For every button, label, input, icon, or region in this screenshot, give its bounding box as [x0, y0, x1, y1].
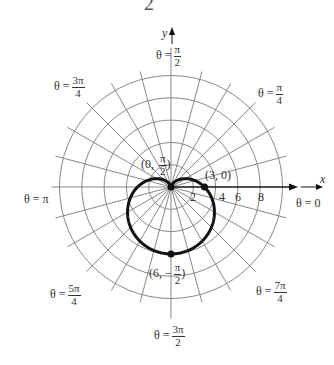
angle-label-5pi-over-4: θ =5π4	[50, 283, 81, 307]
angle-label-3pi-over-2: θ =3π2	[154, 324, 185, 348]
y-axis-label: y	[162, 26, 167, 41]
point-label-origin: (0, π2)	[141, 153, 171, 177]
point-label-6-neg-pi-over-2: (6, −π2)	[149, 262, 185, 286]
tick-label-6: 6	[235, 190, 241, 205]
point-3-0	[201, 184, 208, 191]
x-axis-label: x	[320, 172, 325, 187]
angle-label-3pi-over-4: θ =3π4	[54, 75, 85, 99]
angle-label-pi-over-2: θ =π2	[156, 44, 181, 68]
point-label-3-0: (3, 0)	[205, 169, 231, 181]
angle-label-pi: θ = π	[24, 193, 49, 205]
tick-label-8: 8	[258, 190, 264, 205]
top-fragment-text: 2	[144, 0, 154, 15]
point-6-neg-pi-over-2	[168, 251, 175, 258]
angle-label-pi-over-4: θ =π4	[258, 82, 283, 106]
point-origin	[168, 184, 175, 191]
tick-label-4: 4	[219, 190, 225, 205]
angle-label-7pi-over-4: θ =7π4	[256, 280, 287, 304]
y-axis-arrow	[169, 27, 175, 44]
angle-label-zero: θ = 0	[296, 197, 321, 209]
tick-label-2: 2	[190, 190, 196, 205]
